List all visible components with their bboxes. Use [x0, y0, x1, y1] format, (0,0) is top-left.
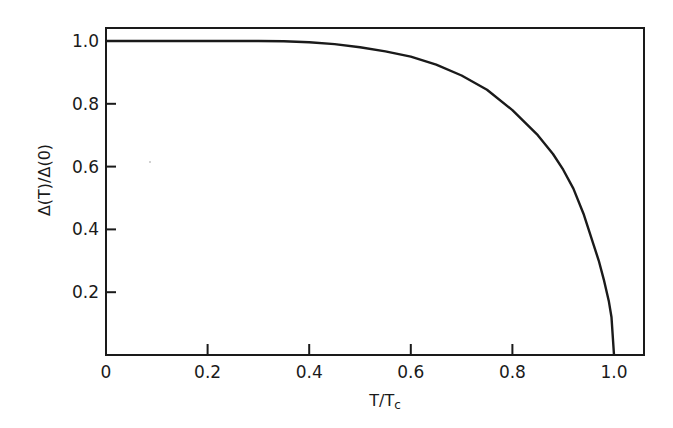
y-axis-ticks: 0.20.40.60.81.0: [72, 31, 116, 302]
y-tick-label: 0.6: [72, 157, 99, 177]
x-axis-label-main: T/T: [368, 391, 394, 410]
x-tick-label: 0: [101, 362, 112, 382]
x-tick-label: 0.6: [397, 362, 424, 382]
y-tick-label: 1.0: [72, 31, 99, 51]
y-tick-label: 0.2: [72, 282, 99, 302]
plot-frame: [106, 28, 644, 355]
x-axis-label-subscript: c: [394, 398, 401, 412]
x-tick-label: 0.8: [499, 362, 526, 382]
y-tick-label: 0.8: [72, 94, 99, 114]
y-axis-label: Δ(T)/Δ(0): [35, 144, 54, 216]
x-tick-label: 0.4: [296, 362, 323, 382]
chart: 00.20.40.60.81.0 0.20.40.60.81.0 Δ(T)/Δ(…: [0, 0, 673, 428]
x-axis-ticks: 00.20.40.60.81.0: [101, 344, 628, 382]
x-tick-label: 1.0: [600, 362, 627, 382]
gap-curve: [106, 41, 614, 355]
x-tick-label: 0.2: [194, 362, 221, 382]
speck: [149, 161, 151, 163]
y-tick-label: 0.4: [72, 219, 99, 239]
x-axis-label: T/Tc: [368, 391, 401, 412]
